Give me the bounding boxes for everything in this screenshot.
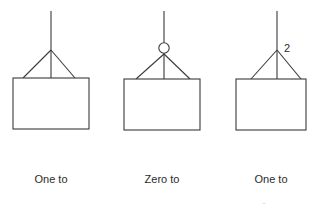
entity-box-3 — [236, 79, 306, 130]
caption-line-1-a: One to — [13, 172, 89, 186]
erd-cardinality-figure: 2 One to many Zero to many One to <two> — [0, 0, 321, 204]
entity-box-1 — [13, 78, 89, 129]
cardinality-annotation-3: 2 — [284, 42, 290, 54]
caption-line-2-b: many — [124, 200, 200, 204]
crows-foot-right-leg-2 — [164, 54, 190, 79]
notation-zero-to-many — [124, 11, 200, 130]
crows-foot-left-leg-3 — [251, 50, 277, 79]
caption-line-1-c: One to — [232, 172, 310, 186]
caption-zero-to-many: Zero to many — [124, 158, 200, 204]
notation-one-to-two: 2 — [236, 11, 306, 130]
caption-one-to-two: One to <two> — [232, 158, 310, 204]
crows-foot-left-leg-1 — [23, 50, 51, 78]
crows-foot-left-leg-2 — [136, 54, 164, 79]
entity-box-2 — [124, 79, 200, 130]
notation-one-to-many — [13, 11, 89, 129]
caption-line-2-c: <two> — [232, 200, 310, 204]
optionality-circle-icon-2 — [159, 43, 169, 53]
crows-foot-right-leg-1 — [51, 50, 75, 78]
caption-line-1-b: Zero to — [124, 172, 200, 186]
crows-foot-right-leg-3 — [277, 50, 301, 79]
caption-one-to-many: One to many — [13, 158, 89, 204]
caption-line-2-a: many — [13, 200, 89, 204]
